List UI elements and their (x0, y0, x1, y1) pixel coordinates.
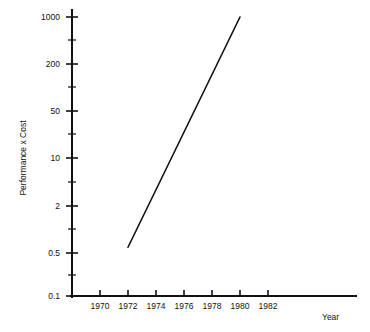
x-tick-label: 1974 (147, 301, 166, 311)
x-tick-label: 1982 (259, 301, 278, 311)
y-tick-label: 10 (51, 153, 61, 163)
y-axis-title: Performance x Cost (18, 120, 28, 196)
chart-container: Performance x Cost Year 1000 (0, 0, 370, 332)
x-tick-label: 1976 (175, 301, 194, 311)
x-axis-title: Year (322, 312, 339, 322)
y-tick-label: 2 (55, 201, 60, 211)
x-axis-tick-labels: 1970 1972 1974 1976 1978 1980 1982 (91, 301, 278, 311)
x-tick-label: 1980 (231, 301, 250, 311)
y-tick-label: 0.5 (48, 248, 60, 258)
y-tick-label: 200 (46, 59, 60, 69)
x-tick-label: 1978 (203, 301, 222, 311)
x-tick-label: 1970 (91, 301, 110, 311)
y-tick-label: 50 (51, 106, 61, 116)
y-tick-label: 0.1 (48, 291, 60, 301)
y-axis-tick-labels: 1000 200 50 10 2 0.5 0.1 (41, 12, 60, 301)
data-series-line (128, 17, 240, 247)
line-chart: Performance x Cost Year 1000 (0, 0, 370, 332)
y-tick-label: 1000 (41, 12, 60, 22)
x-tick-label: 1972 (119, 301, 138, 311)
